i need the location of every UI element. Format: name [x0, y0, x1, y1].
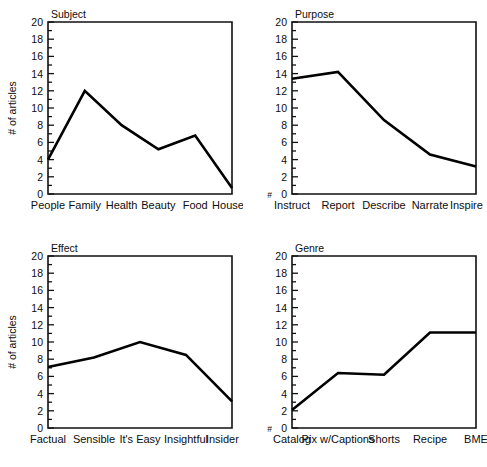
y-tick-label: 14 [31, 68, 43, 80]
y-tick-label: 6 [37, 136, 43, 148]
y-tick-label: 4 [37, 388, 43, 400]
hash-marker: # [267, 190, 272, 200]
y-tick-label: 2 [37, 405, 43, 417]
x-tick-label: Instruct [274, 199, 310, 211]
y-tick-label: 4 [281, 388, 287, 400]
y-tick-label: 18 [275, 33, 287, 45]
y-tick-label: 8 [37, 119, 43, 131]
x-tick-label: People [31, 199, 65, 211]
x-tick-label: Describe [362, 199, 405, 211]
panel-genre: 02468101214161820#GenreCatalogPix w/Capt… [244, 234, 487, 467]
data-series-line [292, 72, 476, 167]
chart-svg: 02468101214161820# of articlesEffectFact… [0, 234, 243, 467]
data-series-line [48, 342, 232, 401]
x-tick-label: BME [464, 433, 487, 445]
hash-marker: # [267, 424, 272, 434]
y-tick-label: 8 [281, 353, 287, 365]
x-tick-label: Recipe [413, 433, 447, 445]
y-tick-label: 12 [31, 85, 43, 97]
y-tick-label: 16 [275, 284, 287, 296]
x-tick-label: House [212, 199, 243, 211]
panel-title: Subject [51, 8, 86, 20]
y-axis-label: # of articles [6, 81, 18, 135]
chart-svg: 02468101214161820# of articlesSubjectPeo… [0, 0, 243, 233]
y-axis-label: # of articles [6, 315, 18, 369]
y-tick-label: 16 [275, 50, 287, 62]
multi-panel-chart-figure: 02468101214161820# of articlesSubjectPeo… [0, 0, 487, 467]
y-tick-label: 4 [281, 154, 287, 166]
panel-effect: 02468101214161820# of articlesEffectFact… [0, 234, 243, 467]
x-tick-label: Narrate [412, 199, 449, 211]
x-tick-label: Insightful [164, 433, 208, 445]
y-tick-label: 6 [281, 370, 287, 382]
y-tick-label: 10 [31, 336, 43, 348]
y-tick-label: 12 [275, 319, 287, 331]
y-tick-label: 16 [31, 50, 43, 62]
y-tick-label: 10 [275, 336, 287, 348]
panel-title: Effect [51, 242, 78, 254]
x-tick-label: Factual [30, 433, 66, 445]
y-tick-label: 14 [275, 68, 287, 80]
y-tick-label: 2 [281, 171, 287, 183]
panel-title: Purpose [295, 8, 334, 20]
chart-svg: 02468101214161820#GenreCatalogPix w/Capt… [244, 234, 487, 467]
plot-frame [292, 22, 476, 194]
y-tick-label: 8 [37, 353, 43, 365]
x-tick-label: It's Easy [119, 433, 161, 445]
data-series-line [292, 333, 476, 410]
x-tick-label: Food [183, 199, 208, 211]
y-tick-label: 14 [275, 302, 287, 314]
y-tick-label: 12 [275, 85, 287, 97]
y-tick-label: 14 [31, 302, 43, 314]
y-tick-label: 6 [37, 370, 43, 382]
x-tick-label: Health [106, 199, 138, 211]
x-tick-label: Family [69, 199, 102, 211]
y-tick-label: 6 [281, 136, 287, 148]
plot-frame [292, 256, 476, 428]
panel-subject: 02468101214161820# of articlesSubjectPeo… [0, 0, 243, 233]
x-tick-label: Inspire [450, 199, 483, 211]
y-tick-label: 16 [31, 284, 43, 296]
y-tick-label: 12 [31, 319, 43, 331]
y-tick-label: 8 [281, 119, 287, 131]
y-tick-label: 20 [275, 16, 287, 28]
y-tick-label: 20 [275, 250, 287, 262]
x-tick-label: Sensible [73, 433, 115, 445]
y-tick-label: 2 [37, 171, 43, 183]
chart-svg: 02468101214161820#PurposeInstructReportD… [244, 0, 487, 233]
y-tick-label: 10 [275, 102, 287, 114]
x-tick-label: Insider [206, 433, 239, 445]
x-tick-label: Pix w/Captions [302, 433, 375, 445]
data-series-line [48, 91, 232, 188]
y-tick-label: 4 [37, 154, 43, 166]
y-tick-label: 2 [281, 405, 287, 417]
panel-title: Genre [295, 242, 324, 254]
panel-purpose: 02468101214161820#PurposeInstructReportD… [244, 0, 487, 233]
y-tick-label: 18 [31, 267, 43, 279]
y-tick-label: 18 [31, 33, 43, 45]
x-tick-label: Report [321, 199, 354, 211]
y-tick-label: 20 [31, 250, 43, 262]
x-tick-label: Shorts [368, 433, 400, 445]
y-tick-label: 10 [31, 102, 43, 114]
y-tick-label: 18 [275, 267, 287, 279]
x-tick-label: Beauty [141, 199, 176, 211]
y-tick-label: 20 [31, 16, 43, 28]
